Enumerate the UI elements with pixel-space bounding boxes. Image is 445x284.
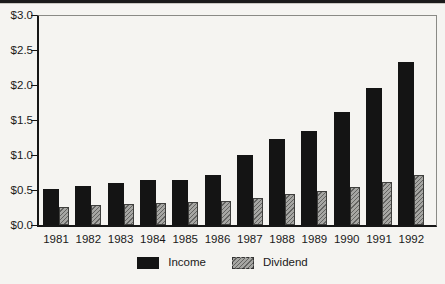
income-bar-1991 xyxy=(366,88,382,225)
y-axis-tick-label: $2.5 xyxy=(0,44,33,57)
dividend-bar-1988 xyxy=(285,194,295,225)
legend-item-income: Income xyxy=(137,256,206,269)
dividend-bar-1989 xyxy=(317,191,327,225)
dividend-bar-1990 xyxy=(350,187,360,226)
y-axis-tick-label: $2.0 xyxy=(0,79,33,92)
income-swatch-icon xyxy=(137,257,159,269)
x-axis-year-label: 1982 xyxy=(72,233,104,246)
dividend-bar-1982 xyxy=(91,205,101,225)
legend-label: Dividend xyxy=(263,256,308,269)
y-axis-tick-label: $1.0 xyxy=(0,149,33,162)
x-axis-year-label: 1983 xyxy=(105,233,137,246)
x-axis-year-label: 1985 xyxy=(169,233,201,246)
dividend-bar-1985 xyxy=(188,202,198,225)
x-axis-year-label: 1990 xyxy=(331,233,363,246)
income-bar-1986 xyxy=(205,175,221,225)
dividend-bar-1991 xyxy=(382,182,392,225)
income-bar-1984 xyxy=(140,180,156,225)
legend-item-dividend: Dividend xyxy=(232,256,308,269)
dividend-swatch-icon xyxy=(232,257,254,269)
x-axis-year-label: 1988 xyxy=(266,233,298,246)
income-bar-1989 xyxy=(301,131,317,226)
scanned-chart-page: $3.0$2.5$2.0$1.5$1.0$0.5$0.0 19811982198… xyxy=(0,0,445,284)
x-axis-year-label: 1986 xyxy=(202,233,234,246)
income-bar-1983 xyxy=(108,183,124,225)
dividend-bar-1981 xyxy=(59,207,69,225)
y-axis-tick-label: $3.0 xyxy=(0,9,33,22)
dividend-bar-1983 xyxy=(124,204,134,225)
x-axis-year-label: 1987 xyxy=(234,233,266,246)
income-bar-1992 xyxy=(398,62,414,225)
x-axis-year-label: 1992 xyxy=(395,233,427,246)
legend-label: Income xyxy=(168,256,206,269)
income-bar-1990 xyxy=(334,112,350,225)
income-bar-1982 xyxy=(75,186,91,225)
legend: IncomeDividend xyxy=(0,256,445,269)
x-axis-year-label: 1984 xyxy=(137,233,169,246)
dividend-bar-1984 xyxy=(156,203,166,225)
dividend-bar-1992 xyxy=(414,175,424,225)
y-axis-tick-label: $0.0 xyxy=(0,219,33,232)
income-bar-1981 xyxy=(43,189,59,225)
dividend-bar-1987 xyxy=(253,198,263,225)
x-axis-year-label: 1981 xyxy=(40,233,72,246)
y-axis-tick-label: $0.5 xyxy=(0,184,33,197)
y-axis-tick-label: $1.5 xyxy=(0,114,33,127)
income-bar-1988 xyxy=(269,139,285,225)
income-bar-1987 xyxy=(237,155,253,225)
top-rule xyxy=(0,0,445,4)
income-bar-1985 xyxy=(172,180,188,226)
x-axis-year-label: 1989 xyxy=(298,233,330,246)
dividend-bar-1986 xyxy=(221,201,231,226)
x-axis-year-label: 1991 xyxy=(363,233,395,246)
